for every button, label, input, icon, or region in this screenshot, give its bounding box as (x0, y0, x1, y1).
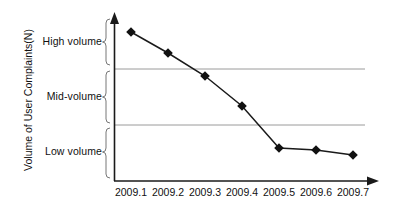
x-tick-label: 2009.4 (221, 186, 263, 198)
bracket-mid-volume (103, 71, 111, 123)
x-axis (114, 177, 379, 186)
x-tick-label: 2009.1 (110, 186, 152, 198)
x-tick-label: 2009.7 (332, 186, 374, 198)
band-label-mid-volume: Mid-volume (10, 90, 102, 102)
gridlines (114, 69, 365, 125)
data-point-markers (126, 27, 358, 160)
x-tick-label: 2009.6 (295, 186, 337, 198)
x-tick-label: 2009.2 (147, 186, 189, 198)
y-axis-arrowhead-icon (110, 12, 119, 24)
y-axis (110, 12, 119, 181)
data-line (131, 32, 353, 155)
x-axis-arrowhead-icon (367, 177, 379, 186)
x-tick-label: 2009.5 (258, 186, 300, 198)
data-point-marker (311, 145, 321, 155)
data-point-marker (348, 150, 358, 160)
data-point-marker (163, 48, 173, 58)
band-brackets (103, 19, 111, 178)
bracket-high-volume (103, 19, 111, 65)
line-chart: Volume of User Complaints(N) High volume… (0, 0, 399, 209)
data-point-marker (126, 27, 136, 37)
chart-canvas (0, 0, 399, 209)
band-label-high-volume: High volume (10, 35, 102, 47)
band-label-low-volume: Low volume (10, 145, 102, 157)
bracket-low-volume (103, 128, 111, 178)
x-tick-label: 2009.3 (184, 186, 226, 198)
